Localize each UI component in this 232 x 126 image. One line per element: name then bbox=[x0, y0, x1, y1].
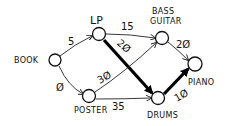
node-piano bbox=[188, 57, 202, 71]
node-poster bbox=[83, 90, 96, 103]
weight-poster-bass: 3Ø bbox=[95, 69, 113, 86]
node-label-piano: PIANO bbox=[188, 78, 214, 87]
weight-bass-piano: 2Ø bbox=[176, 39, 190, 50]
node-book bbox=[49, 54, 61, 66]
node-label-poster: POSTER bbox=[74, 106, 108, 115]
node-lp bbox=[93, 28, 106, 41]
weight-book-poster: Ø bbox=[56, 82, 64, 93]
node-label-bass: BASS bbox=[152, 7, 174, 16]
edge-lp-bass bbox=[106, 34, 155, 38]
node-label-guitar: GUITAR bbox=[150, 17, 182, 26]
weight-lp-drums: 2Ø bbox=[115, 37, 133, 55]
weight-lp-bass: 15 bbox=[121, 21, 134, 32]
weight-poster-drums: 35 bbox=[112, 101, 125, 112]
node-label-lp: LP bbox=[90, 14, 103, 27]
node-label-book: BOOK bbox=[14, 56, 39, 65]
edge-poster-drums bbox=[96, 98, 151, 99]
node-drums bbox=[152, 92, 165, 105]
weight-drums-piano: 1Ø bbox=[172, 87, 190, 104]
edge-book-lp bbox=[60, 36, 92, 56]
graph-diagram: BOOK LP BASS GUITAR POSTER DRUMS PIANO 5… bbox=[0, 0, 232, 126]
weight-book-lp: 5 bbox=[68, 36, 74, 47]
node-bass-guitar bbox=[156, 32, 169, 45]
node-label-drums: DRUMS bbox=[147, 111, 178, 120]
